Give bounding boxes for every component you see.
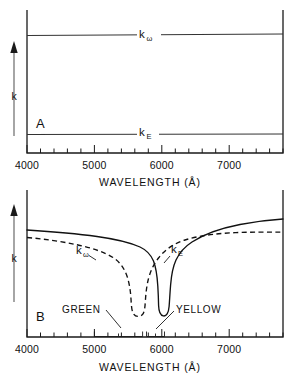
- panel-a-xtick-6000: 6000: [150, 159, 174, 171]
- svg-text:E: E: [178, 249, 183, 258]
- panel-b-xtick-4000: 4000: [15, 343, 39, 355]
- panel-a-xtick-7000: 7000: [217, 159, 241, 171]
- panel-a-minor-ticks: [27, 145, 283, 153]
- svg-text:k: k: [171, 243, 177, 255]
- panel-b-minor-ticks: [27, 329, 283, 337]
- svg-text:ω: ω: [147, 34, 153, 43]
- svg-text:E: E: [147, 132, 152, 141]
- panel-b: k k ω k E B GREEN YELLOW: [0, 190, 297, 381]
- green-band-label: GREEN: [62, 304, 101, 315]
- svg-text:k: k: [139, 28, 145, 40]
- panel-b-y-axis-label: k: [11, 252, 17, 264]
- panel-a-letter: A: [36, 116, 45, 131]
- panel-b-curve-k-e: [27, 219, 283, 316]
- panel-a-label-k-e: k E: [137, 125, 159, 141]
- panel-b-letter: B: [36, 309, 45, 324]
- panel-b-xtick-5000: 5000: [82, 343, 106, 355]
- svg-text:k: k: [76, 244, 82, 256]
- panel-b-xtick-7000: 7000: [217, 343, 241, 355]
- panel-a-x-axis-label: WAVELENGTH (Å): [99, 176, 201, 188]
- panel-a-y-axis-label: k: [11, 90, 17, 102]
- panel-b-green-annotation: GREEN: [62, 304, 121, 328]
- panel-b-yellow-annotation: YELLOW: [156, 304, 221, 329]
- figure-root: k k ω k E A: [0, 0, 297, 381]
- panel-b-label-k-e: k E: [164, 243, 183, 263]
- panel-a: k k ω k E A: [0, 0, 297, 190]
- panel-b-xtick-6000: 6000: [150, 343, 174, 355]
- panel-b-x-axis-label: WAVELENGTH (Å): [99, 361, 201, 373]
- green-band-bracket: [94, 332, 142, 337]
- svg-text:k: k: [139, 126, 145, 138]
- panel-a-y-axis-arrow: [10, 41, 17, 136]
- svg-text:ω: ω: [83, 250, 89, 259]
- yellow-band-label: YELLOW: [176, 304, 221, 315]
- panel-a-xtick-5000: 5000: [82, 159, 106, 171]
- panel-a-label-k-omega: k ω: [137, 27, 161, 43]
- panel-a-xtick-4000: 4000: [15, 159, 39, 171]
